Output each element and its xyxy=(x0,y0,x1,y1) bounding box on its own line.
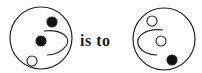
curve-line xyxy=(44,31,68,55)
figure-a xyxy=(10,7,72,69)
white-dot-top xyxy=(147,16,157,26)
black-dot-bottom-right xyxy=(167,55,177,65)
white-dot-bottom-left xyxy=(27,56,37,66)
figure-b xyxy=(133,8,195,70)
connector-text: is to xyxy=(80,32,111,50)
black-dot-top-right xyxy=(47,17,57,27)
white-dot-center xyxy=(156,36,166,46)
black-dot-center xyxy=(36,36,46,46)
